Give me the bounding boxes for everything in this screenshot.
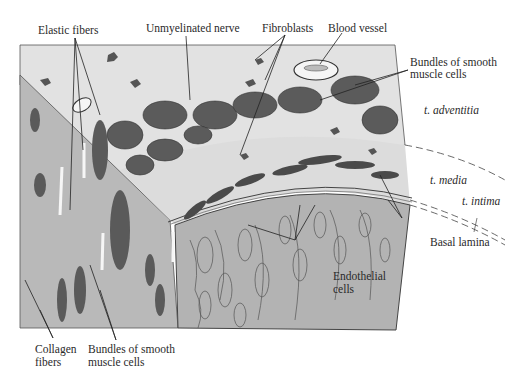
label-endothelial-line2: cells (333, 283, 354, 295)
label-blood-vessel: Blood vessel (328, 22, 387, 34)
label-bundles-smooth-muscle-bottom-line1: Bundles of smooth (88, 343, 175, 355)
label-t-intima: t. intima (462, 195, 500, 207)
label-endothelial-line1: Endothelial (333, 270, 386, 282)
intima-face (175, 194, 410, 330)
label-elastic-fibers: Elastic fibers (38, 24, 98, 36)
label-collagen-line1: Collagen (35, 343, 77, 355)
label-basal-lamina: Basal lamina (430, 236, 490, 248)
label-bundles-smooth-muscle-top-line1: Bundles of smooth (410, 56, 497, 68)
label-bundles-smooth-muscle-bottom-line2: muscle cells (88, 356, 145, 368)
label-collagen-line2: fibers (35, 356, 61, 368)
label-unmyelinated-nerve: Unmyelinated nerve (146, 22, 240, 34)
label-t-adventitia: t. adventitia (424, 104, 479, 116)
label-fibroblasts: Fibroblasts (262, 22, 313, 34)
label-bundles-smooth-muscle-top-line2: muscle cells (410, 68, 467, 80)
label-t-media: t. media (430, 174, 467, 186)
